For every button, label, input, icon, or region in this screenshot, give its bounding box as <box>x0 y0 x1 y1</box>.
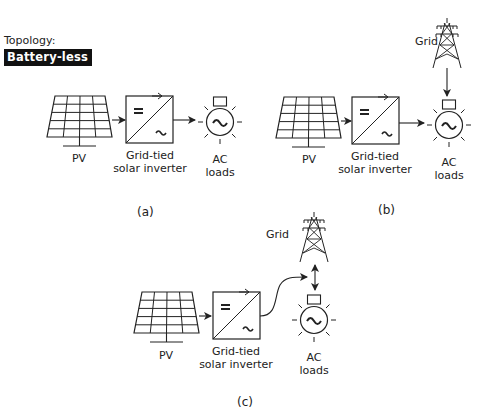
pv-label: PV <box>294 153 324 166</box>
caption-a: (a) <box>137 205 154 219</box>
grid-label: Grid <box>266 228 296 241</box>
inverter-label-line1: Grid-tied <box>114 149 186 162</box>
inverter-icon <box>352 94 399 144</box>
inverter-label-line2: solar inverter <box>110 162 190 175</box>
inverter-label-line1: Grid-tied <box>200 345 272 358</box>
inverter-icon <box>126 93 173 143</box>
ac-label-line1: AC <box>200 153 240 166</box>
ac-label-line2: loads <box>294 364 334 377</box>
grid-label: Grid <box>415 35 445 48</box>
ac-label-line2: loads <box>429 169 469 182</box>
pv-panel-icon <box>134 292 199 342</box>
diagram-c <box>134 212 336 342</box>
grid-tower-icon <box>300 212 328 262</box>
inverter-icon <box>213 289 260 339</box>
inverter-label-line2: solar inverter <box>196 358 276 371</box>
pv-panel-icon <box>276 97 341 147</box>
ac-load-icon <box>198 97 242 144</box>
ac-label-line1: AC <box>294 351 334 364</box>
caption-c: (c) <box>237 395 253 409</box>
ac-label-line1: AC <box>429 156 469 169</box>
ac-label-line2: loads <box>200 166 240 179</box>
ac-load-icon <box>427 100 471 147</box>
pv-label: PV <box>151 349 181 362</box>
inverter-label-line1: Grid-tied <box>339 150 411 163</box>
ac-load-icon <box>292 295 336 342</box>
pv-label: PV <box>64 152 94 165</box>
caption-b: (b) <box>378 203 395 217</box>
inverter-label-line2: solar inverter <box>335 163 415 176</box>
pv-panel-icon <box>47 96 112 146</box>
arrow-inverter-to-junction <box>260 277 307 316</box>
diagram-a <box>47 93 242 146</box>
